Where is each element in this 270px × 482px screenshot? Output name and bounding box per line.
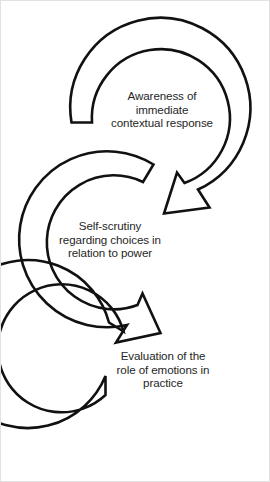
loop-evaluation-arrow	[1, 260, 123, 428]
cycle-diagram-graphic	[1, 1, 270, 482]
loop-awareness-arrow	[70, 18, 250, 214]
loop-self-scrutiny-arrow	[19, 151, 160, 342]
diagram-canvas: Awareness of immediate contextual respon…	[0, 0, 270, 482]
